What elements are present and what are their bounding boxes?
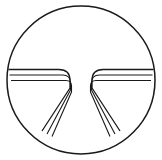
- icon-canvas: [0, 0, 162, 160]
- left-lane-inner: [11, 81, 72, 137]
- right-lane-inner: [91, 81, 152, 137]
- left-lane-outer: [9, 70, 71, 132]
- left-lane-middle: [10, 75, 71, 134]
- icon-svg: [0, 0, 162, 160]
- right-funnel-group: [91, 70, 154, 137]
- right-lane-outer: [92, 70, 154, 132]
- left-funnel-group: [9, 70, 72, 137]
- right-lane-middle: [92, 75, 153, 134]
